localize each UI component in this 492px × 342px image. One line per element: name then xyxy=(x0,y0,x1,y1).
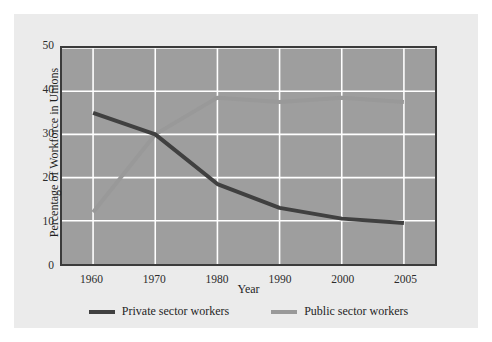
chart-legend: Private sector workersPublic sector work… xyxy=(60,304,437,319)
data-series-layer xyxy=(62,48,435,264)
legend-item: Private sector workers xyxy=(89,304,229,319)
legend-item: Public sector workers xyxy=(271,304,408,319)
plot-area xyxy=(60,46,437,266)
x-axis-title: Year xyxy=(60,282,437,297)
legend-label: Private sector workers xyxy=(122,304,229,319)
legend-swatch-icon xyxy=(271,310,297,314)
plot-inner xyxy=(62,48,435,264)
series-line xyxy=(93,113,404,223)
legend-swatch-icon xyxy=(89,310,115,314)
y-axis-title: Percentage of Workforce in Unions xyxy=(47,43,62,263)
chart-figure: 01020304050 196019701980199020002005 Yea… xyxy=(14,14,478,328)
legend-label: Public sector workers xyxy=(304,304,408,319)
